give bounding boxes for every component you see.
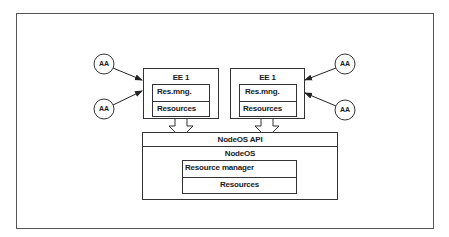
ee-title: EE 1 (144, 73, 218, 82)
execution-environment-right: EE 1 Res.mng. Resources (230, 68, 305, 119)
api-divider (143, 146, 337, 147)
ee-title: EE 1 (231, 73, 304, 82)
arrow-aa-right-bottom (305, 93, 336, 106)
resources-label: Resources (183, 180, 296, 189)
agent-label: AA (94, 99, 114, 119)
arrow-aa-left-bottom (113, 91, 142, 105)
divider (183, 177, 296, 178)
ee-inner-box: Res.mng. Resources (152, 84, 210, 117)
nodeos-api-label: NodeOS API (143, 135, 337, 144)
divider (240, 101, 296, 102)
arrow-aa-left-top (113, 68, 142, 80)
ee-res-mng: Res.mng. (157, 87, 209, 96)
nodeos-inner-box: Resource manager Resources (182, 160, 297, 194)
nodeos-title: NodeOS (143, 149, 337, 158)
agent-label: AA (94, 54, 114, 74)
execution-environment-left: EE 1 Res.mng. Resources (143, 68, 219, 119)
agent-label: AA (335, 100, 355, 120)
resource-manager-label: Resource manager (185, 163, 296, 172)
connectors (0, 0, 449, 237)
ee-resources: Resources (243, 104, 296, 113)
arrow-aa-right-top (305, 68, 336, 80)
agent-label: AA (335, 54, 355, 74)
ee-inner-box: Res.mng. Resources (239, 84, 297, 117)
divider (153, 101, 209, 102)
ee-resources: Resources (157, 104, 209, 113)
ee-res-mng: Res.mng. (245, 87, 296, 96)
nodeos-box: NodeOS API NodeOS Resource manager Resou… (142, 132, 338, 200)
